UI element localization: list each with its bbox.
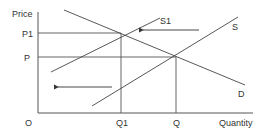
supply-curve-s1 — [51, 18, 160, 72]
price-label-p1: P1 — [22, 29, 33, 39]
supply-demand-diagram: Price P1 P O Q1 Q Quantity S1 S D — [0, 0, 264, 135]
origin-label: O — [25, 118, 32, 128]
x-axis-label: Quantity — [219, 118, 253, 128]
quantity-label-q: Q — [173, 118, 180, 128]
demand-curve-d — [64, 10, 245, 85]
curve-label-s1: S1 — [160, 16, 171, 26]
y-axis-label: Price — [12, 9, 33, 19]
quantity-label-q1: Q1 — [116, 118, 128, 128]
curve-label-d: D — [238, 89, 245, 99]
price-label-p: P — [24, 53, 30, 63]
curve-label-s: S — [232, 22, 238, 32]
